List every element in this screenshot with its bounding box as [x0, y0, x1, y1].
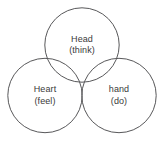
circle-hand: [82, 58, 156, 132]
venn-diagram-canvas: [0, 0, 165, 148]
venn-diagram: Head (think) Heart (feel) hand (do): [0, 0, 165, 148]
circle-heart: [8, 58, 82, 132]
